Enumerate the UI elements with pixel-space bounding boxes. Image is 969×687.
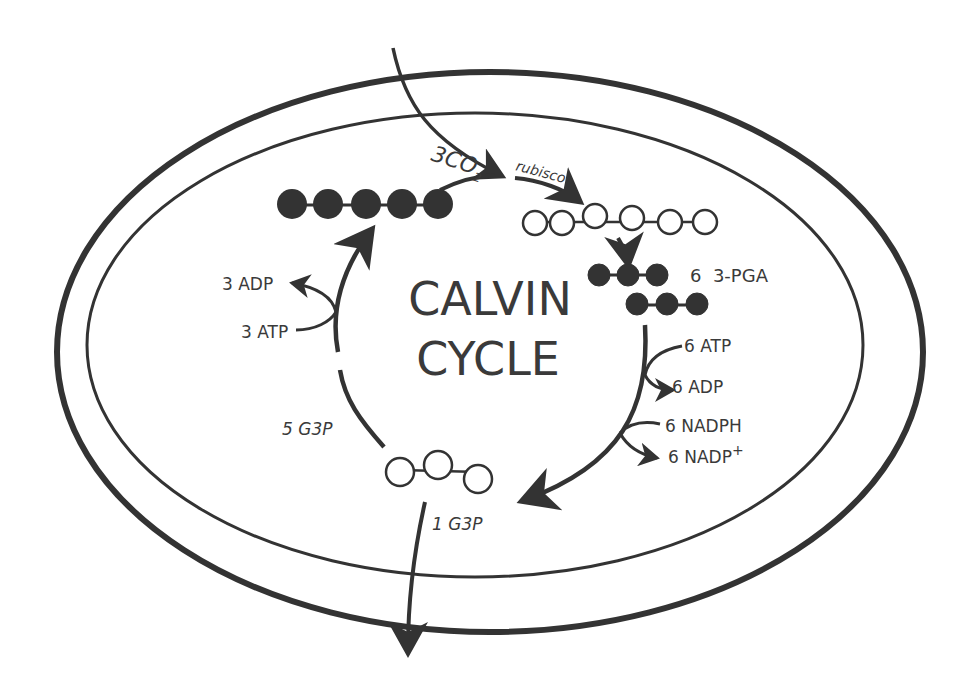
rubp-regeneration-arrow: [336, 232, 370, 352]
six-carbon-intermediate: [523, 204, 717, 235]
adp-branch: [645, 375, 673, 390]
regeneration-arrow: [340, 370, 384, 447]
atp-branch: [645, 346, 682, 375]
adp3-branch: [292, 283, 336, 312]
title-cycle: CYCLE: [416, 332, 560, 386]
g3p5-label: 5 G3P: [282, 419, 333, 439]
atp3-branch: [296, 312, 336, 330]
title-calvin: CALVIN: [408, 272, 572, 326]
nadp6-label: 6 NADP+: [668, 442, 744, 467]
nadp-branch: [620, 433, 657, 458]
split-arrow: [618, 238, 628, 262]
calvin-cycle-diagram: 3CO2 rubisco 6 3-PGA 6 ATP 6 ADP: [0, 0, 969, 687]
atp6-label: 6 ATP: [684, 336, 731, 356]
adp6-label: 6 ADP: [672, 377, 723, 397]
atp3-label: 3 ATP: [241, 322, 288, 342]
g3p-molecule: [386, 451, 492, 493]
nadph6-label: 6 NADPH: [665, 416, 742, 436]
pga-label: 6 3-PGA: [690, 265, 769, 286]
adp3-label: 3 ADP: [222, 274, 273, 294]
g3p1-label: 1 G3P: [432, 514, 483, 534]
rubp-molecule: [277, 189, 453, 219]
